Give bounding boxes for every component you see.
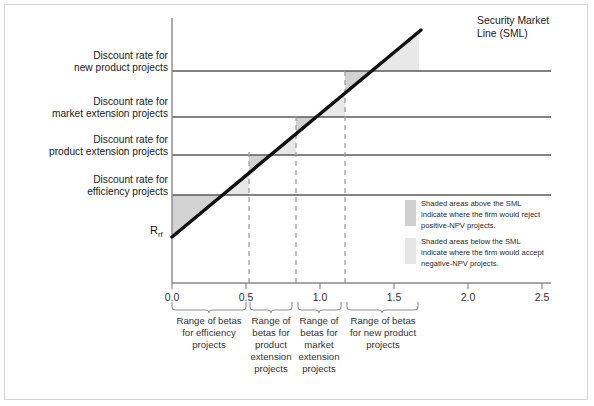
- legend-entry-above-sml: Shaded areas above the SML indicate wher…: [405, 199, 569, 231]
- bracket-label-market-extension-line5: projects: [296, 363, 342, 375]
- bracket-label-market-extension-line2: betas for: [296, 327, 342, 339]
- bracket-label-efficiency-line3: projects: [164, 339, 254, 351]
- xtick-2: 1.0: [305, 291, 335, 303]
- legend-swatch-above-sml-icon: [405, 200, 416, 226]
- xtick-5: 2.5: [527, 291, 557, 303]
- ylabel-new-product: Discount rate for new product projects: [58, 50, 168, 74]
- legend-above-line2: indicate where the firm would reject: [421, 210, 569, 221]
- legend-above-line1: Shaded areas above the SML: [421, 199, 569, 210]
- legend-text-above-sml: Shaded areas above the SML indicate wher…: [421, 199, 569, 231]
- legend-text-below-sml: Shaded areas below the SML indicate wher…: [421, 237, 569, 269]
- legend-above-line3: positive-NPV projects.: [421, 221, 569, 232]
- bracket-label-new-product-line2: for new product: [338, 327, 428, 339]
- ylabel-efficiency-line1: Discount rate for: [58, 174, 168, 186]
- ylabel-product-extension-line2: product extension projects: [34, 146, 168, 158]
- bracket-label-new-product: Range of betas for new product projects: [338, 315, 428, 351]
- beta-range-brackets: [172, 302, 418, 313]
- chart-legend: Shaded areas above the SML indicate wher…: [405, 199, 569, 276]
- bracket-label-new-product-line1: Range of betas: [338, 315, 428, 327]
- sml-annotation-line1: Security Market: [477, 14, 589, 27]
- bracket-label-market-extension-line1: Range of: [296, 315, 342, 327]
- ylabel-market-extension: Discount rate for market extension proje…: [40, 96, 168, 120]
- ylabel-efficiency-line2: efficiency projects: [58, 186, 168, 198]
- risk-free-rate-base: R: [150, 224, 158, 236]
- bracket-label-product-extension-line4: extension: [248, 351, 294, 363]
- bracket-label-product-extension-line3: product: [248, 339, 294, 351]
- bracket-label-product-extension-line2: betas for: [248, 327, 294, 339]
- bracket-label-efficiency: Range of betas for efficiency projects: [164, 315, 254, 351]
- legend-entry-below-sml: Shaded areas below the SML indicate wher…: [405, 237, 569, 269]
- bracket-label-market-extension: Range of betas for market extension proj…: [296, 315, 342, 375]
- ylabel-market-extension-line2: market extension projects: [40, 108, 168, 120]
- ylabel-product-extension: Discount rate for product extension proj…: [34, 134, 168, 158]
- bracket-label-product-extension: Range of betas for product extension pro…: [248, 315, 294, 375]
- bracket-label-product-extension-line5: projects: [248, 363, 294, 375]
- risk-free-rate-label: Rrf: [150, 224, 162, 239]
- xtick-3: 1.5: [379, 291, 409, 303]
- security-market-line: [172, 30, 421, 237]
- sml-annotation-line2: Line (SML): [477, 27, 589, 40]
- figure-canvas: Discount rate for new product projects D…: [0, 0, 594, 406]
- bracket-product-extension: [250, 302, 292, 313]
- legend-swatch-below-sml-icon: [405, 238, 416, 264]
- legend-below-line3: negative-NPV projects.: [421, 259, 569, 270]
- bracket-label-market-extension-line3: market: [296, 339, 342, 351]
- discount-rate-lines: [172, 71, 551, 195]
- legend-below-line2: indicate where the firm would accept: [421, 248, 569, 259]
- ylabel-market-extension-line1: Discount rate for: [40, 96, 168, 108]
- xtick-1: 0.5: [231, 291, 261, 303]
- xtick-0: 0.0: [157, 291, 187, 303]
- ylabel-product-extension-line1: Discount rate for: [34, 134, 168, 146]
- bracket-efficiency: [172, 302, 246, 313]
- bracket-market-extension: [298, 302, 341, 313]
- bracket-new-product: [347, 302, 418, 313]
- bracket-label-market-extension-line4: extension: [296, 351, 342, 363]
- bracket-label-new-product-line3: projects: [338, 339, 428, 351]
- ylabel-new-product-line2: new product projects: [58, 62, 168, 74]
- ylabel-new-product-line1: Discount rate for: [58, 50, 168, 62]
- bracket-label-efficiency-line2: for efficiency: [164, 327, 254, 339]
- risk-free-rate-subscript: rf: [158, 230, 163, 239]
- ylabel-efficiency: Discount rate for efficiency projects: [58, 174, 168, 198]
- bracket-label-product-extension-line1: Range of: [248, 315, 294, 327]
- x-axis-ticks: [172, 283, 542, 289]
- bracket-label-efficiency-line1: Range of betas: [164, 315, 254, 327]
- beta-boundary-dashed-lines: [249, 68, 345, 283]
- legend-below-line1: Shaded areas below the SML: [421, 237, 569, 248]
- xtick-4: 2.0: [453, 291, 483, 303]
- sml-annotation: Security Market Line (SML): [477, 14, 589, 40]
